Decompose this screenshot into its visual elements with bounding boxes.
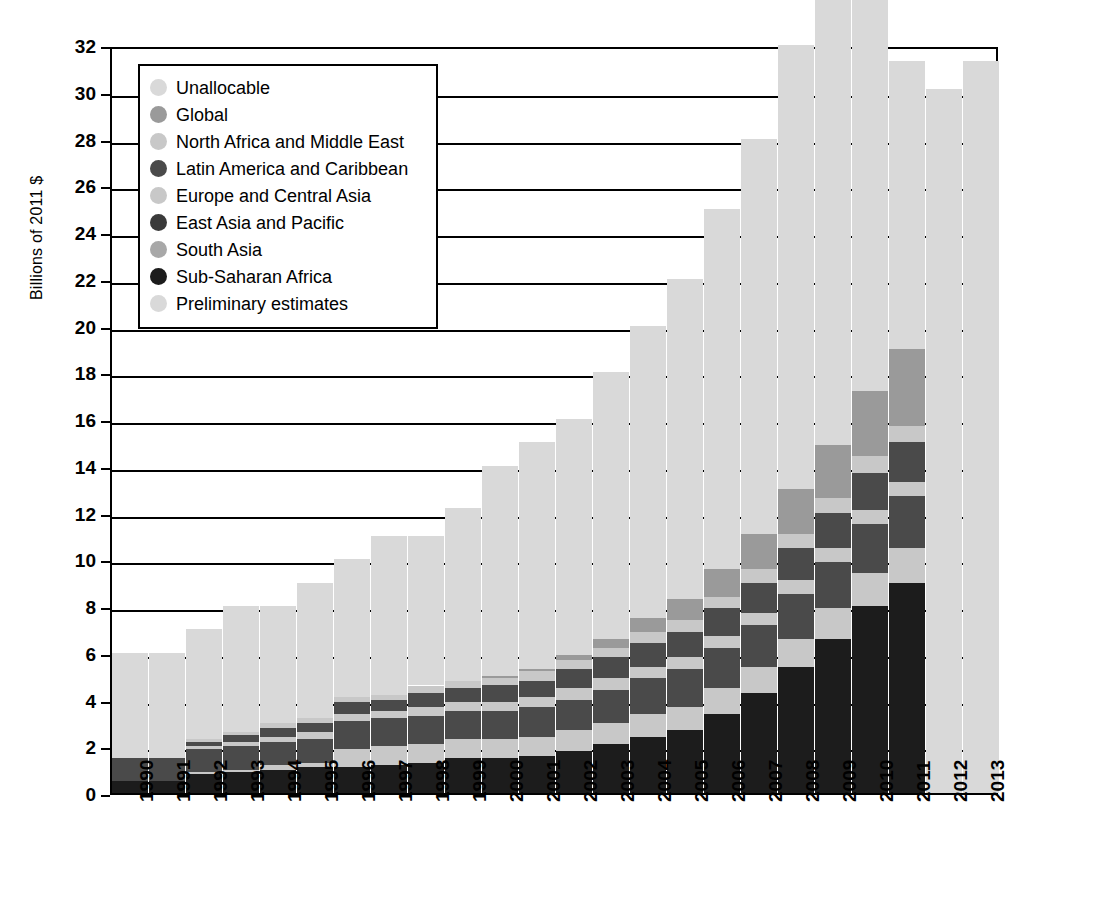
- bar-segment: [815, 608, 851, 638]
- y-axis-tick-mark: [101, 187, 110, 189]
- bar-segment: [704, 597, 740, 609]
- legend-item[interactable]: South Asia: [150, 236, 426, 263]
- bar-segment: [889, 442, 925, 482]
- bar-2006[interactable]: [704, 45, 740, 793]
- chart-figure: Billions of 2011 $ 024681012141618202224…: [0, 0, 1115, 899]
- bar-segment: [741, 569, 777, 583]
- bar-segment: [741, 625, 777, 667]
- x-axis-tick-label: 1997: [396, 712, 415, 802]
- bar-segment: [741, 583, 777, 613]
- bar-segment: [704, 636, 740, 648]
- legend-item[interactable]: Global: [150, 101, 426, 128]
- x-axis-tick-label: 1996: [359, 712, 378, 802]
- bar-segment: [667, 620, 703, 632]
- y-axis-title: Billions of 2011 $: [28, 40, 46, 300]
- y-axis-tick-mark: [101, 515, 110, 517]
- bar-segment: [260, 606, 296, 723]
- y-axis-tick-mark: [101, 748, 110, 750]
- y-axis-tick-mark: [101, 561, 110, 563]
- bar-2010[interactable]: [852, 45, 888, 793]
- x-axis-tick-label: 1998: [433, 712, 452, 802]
- legend-item[interactable]: Sub-Saharan Africa: [150, 263, 426, 290]
- x-axis-tick-label: 2007: [766, 712, 785, 802]
- legend-swatch-icon: [150, 106, 167, 123]
- y-axis-tick-mark: [101, 421, 110, 423]
- legend-swatch-icon: [150, 214, 167, 231]
- legend-item-label: Sub-Saharan Africa: [176, 268, 332, 286]
- legend-item[interactable]: East Asia and Pacific: [150, 209, 426, 236]
- bar-segment: [556, 669, 592, 688]
- x-axis-tick-label: 2002: [581, 712, 600, 802]
- bar-segment: [852, 473, 888, 510]
- bar-segment: [704, 569, 740, 597]
- legend-item[interactable]: North Africa and Middle East: [150, 128, 426, 155]
- bar-2011[interactable]: [889, 45, 925, 793]
- y-axis-tick-mark: [101, 47, 110, 49]
- x-axis-tick-label: 1999: [470, 712, 489, 802]
- bar-segment: [778, 534, 814, 548]
- bar-segment: [889, 482, 925, 496]
- bar-2005[interactable]: [667, 45, 703, 793]
- bar-segment: [926, 89, 962, 793]
- bar-segment: [889, 496, 925, 547]
- legend-swatch-icon: [150, 295, 167, 312]
- bar-segment: [778, 639, 814, 667]
- legend-item[interactable]: Preliminary estimates: [150, 290, 426, 317]
- bar-2004[interactable]: [630, 45, 666, 793]
- y-axis-tick-mark: [101, 702, 110, 704]
- legend-swatch-icon: [150, 268, 167, 285]
- bar-segment: [556, 660, 592, 669]
- y-axis-tick-label: 12: [52, 505, 96, 524]
- y-axis-tick-label: 14: [52, 458, 96, 477]
- bar-2000[interactable]: [482, 45, 518, 793]
- bar-segment: [445, 702, 481, 711]
- y-axis-tick-label: 20: [52, 318, 96, 337]
- bar-segment: [815, 0, 851, 445]
- bar-segment: [408, 536, 444, 686]
- bar-segment: [778, 45, 814, 489]
- x-axis-tick-label: 2008: [803, 712, 822, 802]
- bar-segment: [519, 442, 555, 669]
- bar-segment: [371, 700, 407, 712]
- bar-2001[interactable]: [519, 45, 555, 793]
- legend-item[interactable]: Europe and Central Asia: [150, 182, 426, 209]
- y-axis-tick-mark: [101, 468, 110, 470]
- legend-swatch-icon: [150, 160, 167, 177]
- bar-2002[interactable]: [556, 45, 592, 793]
- bar-segment: [593, 657, 629, 678]
- bar-2007[interactable]: [741, 45, 777, 793]
- bar-segment: [593, 372, 629, 638]
- bar-segment: [741, 613, 777, 625]
- bar-2003[interactable]: [593, 45, 629, 793]
- bar-segment: [445, 688, 481, 702]
- legend-item[interactable]: Unallocable: [150, 74, 426, 101]
- bar-segment: [556, 688, 592, 700]
- bar-segment: [482, 676, 518, 678]
- bar-segment: [815, 513, 851, 548]
- bar-2008[interactable]: [778, 45, 814, 793]
- legend-item[interactable]: Latin America and Caribbean: [150, 155, 426, 182]
- y-axis-tick-mark: [101, 328, 110, 330]
- y-axis-tick-mark: [101, 94, 110, 96]
- bar-segment: [519, 669, 555, 671]
- bar-segment: [852, 456, 888, 472]
- chart-legend: UnallocableGlobalNorth Africa and Middle…: [138, 64, 438, 329]
- legend-item-label: North Africa and Middle East: [176, 133, 404, 151]
- legend-item-label: Global: [176, 106, 228, 124]
- x-axis-tick-label: 2001: [544, 712, 563, 802]
- bar-segment: [741, 139, 777, 534]
- legend-item-label: Preliminary estimates: [176, 295, 348, 313]
- bar-segment: [815, 498, 851, 512]
- bar-segment: [630, 326, 666, 618]
- legend-swatch-icon: [150, 241, 167, 258]
- bar-2009[interactable]: [815, 45, 851, 793]
- x-axis-tick-label: 2003: [618, 712, 637, 802]
- bar-2013[interactable]: [963, 45, 999, 793]
- bar-segment: [408, 693, 444, 707]
- legend-swatch-icon: [150, 79, 167, 96]
- bar-2012[interactable]: [926, 45, 962, 793]
- x-axis-tick-label: 1993: [248, 712, 267, 802]
- bar-segment: [704, 209, 740, 569]
- bar-1999[interactable]: [445, 45, 481, 793]
- bar-segment: [741, 667, 777, 693]
